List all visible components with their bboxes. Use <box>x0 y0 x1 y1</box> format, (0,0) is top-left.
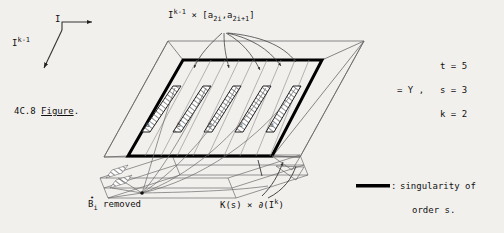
boundary-partial: ∂(I <box>258 200 274 210</box>
boundary-k-of-s: K(s) <box>220 200 242 210</box>
figure-caption: 4C.8 Figure. <box>14 106 79 116</box>
legend-line-1: singularity of <box>400 181 476 191</box>
legend-line-swatch <box>356 184 390 188</box>
b-dot-accent: • <box>90 193 94 203</box>
boundary-label: K(s) × ∂(Ik) <box>220 200 284 210</box>
annotation-t: t = 5 <box>440 61 467 71</box>
b-removed-label: •Bi removed <box>88 199 141 209</box>
equals-y-annotation: = Y , <box>397 85 424 95</box>
legend-line-2: order s. <box>412 205 455 215</box>
legend-colon: : <box>391 181 396 191</box>
label-pointer-arrows <box>194 33 296 70</box>
top-label-times: × [ <box>186 10 208 20</box>
svg-text:B: B <box>270 121 274 128</box>
axis-diag-exponent: k-1 <box>17 36 30 44</box>
top-product-label: Ik-1 × [a2i,a2i+1] <box>168 10 255 20</box>
figure-caption-period: . <box>74 106 79 116</box>
outer-parallelogram <box>104 41 364 157</box>
axis-label-diagonal: Ik-1 <box>12 38 30 48</box>
svg-text:B: B <box>146 121 150 128</box>
boundary-close: ) <box>278 200 283 210</box>
figure-caption-number: 4C.8 <box>14 106 36 116</box>
axis-label-horizontal: I <box>55 14 60 24</box>
top-label-a-second-sub: 2i+1 <box>232 15 249 23</box>
annotation-s: s = 3 <box>440 85 467 95</box>
b-removed-point <box>140 191 144 195</box>
figure-caption-word: Figure <box>41 106 74 116</box>
axis-arrows <box>44 22 92 68</box>
figure-root: B B B B B <box>0 0 504 233</box>
top-label-exponent: k-1 <box>173 8 186 16</box>
top-label-a-first-sub: 2i <box>213 15 221 23</box>
boundary-times: × <box>242 200 258 210</box>
top-label-close: ] <box>249 10 254 20</box>
annotation-k: k = 2 <box>440 109 467 119</box>
diagram-canvas: B B B B B <box>0 0 504 233</box>
svg-text:B: B <box>177 121 181 128</box>
b-removed-text: removed <box>98 199 141 209</box>
